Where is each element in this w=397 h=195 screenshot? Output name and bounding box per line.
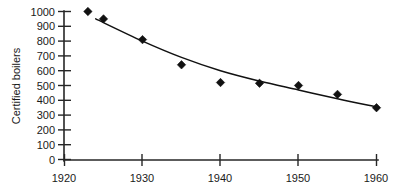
data-point-markers xyxy=(84,7,381,112)
x-tick-label-1960: 1960 xyxy=(364,172,388,184)
data-point-marker xyxy=(294,81,302,89)
boilers-decline-scatter-chart: 1000 900 800 700 600 500 400 300 200 100… xyxy=(0,0,397,195)
data-point-marker xyxy=(177,61,185,69)
data-point-marker xyxy=(216,78,224,86)
y-tick-label-1000: 1000 xyxy=(31,6,55,18)
data-point-marker xyxy=(84,7,92,15)
x-axis-tick-labels: 1920 1930 1940 1950 1960 xyxy=(52,172,388,184)
x-tick-label-1950: 1950 xyxy=(286,172,310,184)
y-axis-title: Certified boilers xyxy=(10,47,22,124)
y-tick-label-800: 800 xyxy=(37,35,55,47)
y-tick-label-0: 0 xyxy=(49,154,55,166)
y-tick-label-700: 700 xyxy=(37,50,55,62)
x-tick-label-1930: 1930 xyxy=(130,172,154,184)
y-tick-label-500: 500 xyxy=(37,80,55,92)
y-tick-label-900: 900 xyxy=(37,20,55,32)
x-tick-label-1920: 1920 xyxy=(52,172,76,184)
chart-container: 1000 900 800 700 600 500 400 300 200 100… xyxy=(0,0,397,195)
y-tick-label-400: 400 xyxy=(37,94,55,106)
y-tick-label-300: 300 xyxy=(37,109,55,121)
y-axis-tick-labels: 1000 900 800 700 600 500 400 300 200 100… xyxy=(31,6,55,166)
y-tick-label-100: 100 xyxy=(37,139,55,151)
y-tick-label-200: 200 xyxy=(37,124,55,136)
x-tick-label-1940: 1940 xyxy=(208,172,232,184)
y-tick-label-600: 600 xyxy=(37,65,55,77)
data-point-marker xyxy=(372,104,380,112)
data-point-marker xyxy=(333,90,341,98)
